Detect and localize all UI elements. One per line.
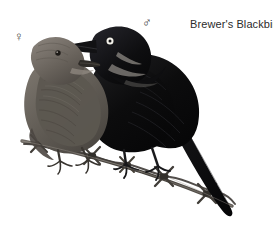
male-eye-pupil (109, 40, 112, 43)
female-symbol: ♀ (14, 30, 24, 43)
male-symbol: ♂ (142, 16, 152, 29)
female-eye (55, 50, 60, 55)
illustration-plate: ♀ ♂ Brewer's Blackbird (0, 0, 273, 246)
species-name-label: Brewer's Blackbird (190, 18, 273, 31)
bird-illustration-artwork (0, 0, 273, 246)
